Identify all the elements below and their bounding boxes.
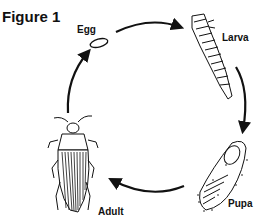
- egg-icon: [89, 37, 108, 49]
- lifecycle-diagram: [0, 0, 261, 215]
- arrow-larva-to-pupa: [236, 67, 245, 130]
- arrow-pupa-to-adult: [112, 180, 184, 192]
- larva-icon: [192, 14, 232, 99]
- arrow-adult-to-egg: [68, 52, 88, 113]
- adult-beetle-icon: [48, 116, 98, 212]
- arrow-egg-to-larva: [116, 23, 180, 32]
- pupa-icon: [197, 141, 248, 211]
